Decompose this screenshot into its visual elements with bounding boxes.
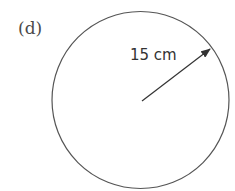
radius-label: 15 cm [130,46,177,64]
part-label: (d) [18,18,42,38]
circle-diagram: (d) 15 cm [0,0,235,191]
circle-shape [52,12,229,189]
